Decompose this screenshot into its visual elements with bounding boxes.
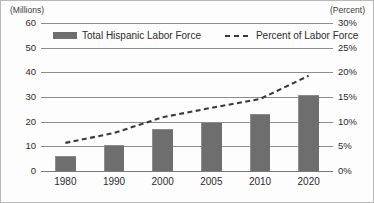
right-tick-label: 15% <box>338 92 357 102</box>
left-axis-caption: (Millions) <box>10 5 44 15</box>
plot-area: 0102030405060 0%5%10%15%20%25%30% 198019… <box>41 23 333 171</box>
gridline <box>41 122 333 123</box>
right-tick-label: 5% <box>338 141 352 151</box>
gridline <box>41 146 333 147</box>
x-tick-label: 1980 <box>54 177 76 187</box>
gridline <box>41 72 333 73</box>
gridline <box>41 97 333 98</box>
right-tick-label: 20% <box>338 67 357 77</box>
x-tick-label: 2020 <box>298 177 320 187</box>
chart-container: (Millions) (Percent) Total Hispanic Labo… <box>0 0 374 203</box>
bar <box>152 129 172 171</box>
right-tick-label: 30% <box>338 18 357 28</box>
gridline <box>41 171 333 172</box>
left-tick-label: 20 <box>25 117 36 127</box>
left-tick-label: 40 <box>25 67 36 77</box>
left-tick-label: 30 <box>25 92 36 102</box>
x-tick-label: 2000 <box>152 177 174 187</box>
bar <box>55 156 75 171</box>
x-tick-label: 1990 <box>103 177 125 187</box>
bar <box>250 114 270 171</box>
left-tick-label: 50 <box>25 43 36 53</box>
bar <box>104 145 124 171</box>
percent-dashed-line <box>65 76 308 143</box>
x-tick-label: 2005 <box>200 177 222 187</box>
right-tick-label: 25% <box>338 43 357 53</box>
gridline <box>41 23 333 24</box>
bar <box>201 122 221 171</box>
gridline <box>41 48 333 49</box>
right-tick-label: 10% <box>338 117 357 127</box>
x-tick-label: 2010 <box>249 177 271 187</box>
bar <box>298 95 318 171</box>
right-tick-label: 0% <box>338 166 352 176</box>
left-tick-label: 60 <box>25 18 36 28</box>
left-tick-label: 10 <box>25 141 36 151</box>
left-tick-label: 0 <box>31 166 36 176</box>
right-axis-caption: (Percent) <box>330 5 365 15</box>
